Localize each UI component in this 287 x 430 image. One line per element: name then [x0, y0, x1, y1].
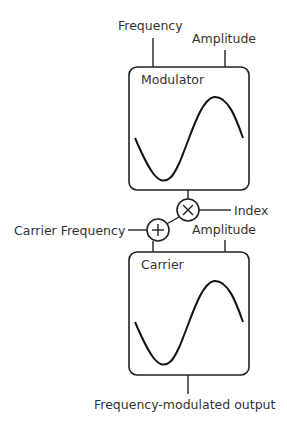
- modulator-amplitude-label: Amplitude: [192, 31, 256, 46]
- modulator-label: Modulator: [141, 72, 205, 87]
- carrier-frequency-label: Carrier Frequency: [14, 223, 126, 238]
- index-label: Index: [234, 203, 268, 218]
- fm-synthesis-diagram: Frequency Amplitude Modulator Index Carr…: [0, 0, 287, 430]
- carrier-amplitude-label: Amplitude: [192, 222, 256, 237]
- carrier-label: Carrier: [141, 257, 185, 272]
- modulator-frequency-label: Frequency: [118, 18, 183, 33]
- output-label: Frequency-modulated output: [94, 397, 276, 412]
